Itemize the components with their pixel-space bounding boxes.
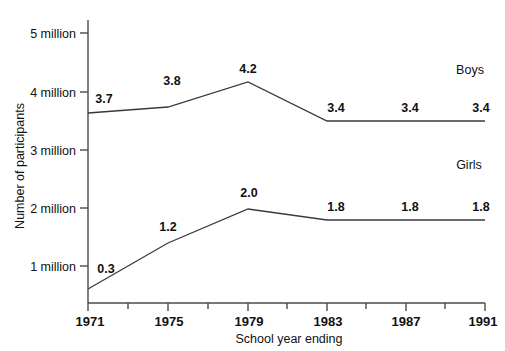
data-labels-girls: 0.3 1.2 2.0 1.8 1.8 1.8 [97,186,489,276]
data-label-boys: 3.4 [327,101,344,115]
data-label-girls: 1.2 [159,220,176,234]
y-tick-label: 1 million [30,260,76,274]
y-tick-label: 4 million [30,86,76,100]
y-tick-label: 3 million [30,144,76,158]
data-label-boys: 4.2 [239,62,256,76]
x-axis-title: School year ending [235,332,342,346]
data-labels-boys: 3.7 3.8 4.2 3.4 3.4 3.4 [95,62,489,115]
series-label-boys: Boys [456,63,484,77]
x-axis-ticks [88,303,485,311]
data-label-girls: 1.8 [327,200,344,214]
data-label-girls: 1.8 [472,200,489,214]
y-tick-label: 2 million [30,202,76,216]
data-label-boys: 3.8 [163,74,180,88]
x-tick-label: 1975 [155,314,184,329]
data-label-boys: 3.7 [95,92,112,106]
y-axis-tick-labels: 5 million 4 million 3 million 2 million … [30,27,76,274]
x-axis-tick-labels: 1971 1975 1979 1983 1987 1991 [76,314,498,329]
y-axis-title: Number of participants [13,103,27,229]
x-tick-label: 1987 [392,314,421,329]
data-label-boys: 3.4 [472,101,489,115]
x-tick-label: 1983 [314,314,343,329]
x-tick-label: 1991 [469,314,498,329]
series-line-girls [88,209,485,289]
y-tick-label: 5 million [30,27,76,41]
data-label-girls: 2.0 [240,186,257,200]
x-tick-label: 1971 [76,314,105,329]
series-label-girls: Girls [456,158,482,172]
chart-canvas: 5 million 4 million 3 million 2 million … [0,0,505,351]
data-label-girls: 1.8 [401,200,418,214]
line-chart-figure: 5 million 4 million 3 million 2 million … [0,0,505,351]
y-axis-ticks [80,33,88,266]
x-tick-label: 1979 [235,314,264,329]
series-line-boys [88,82,485,121]
data-label-boys: 3.4 [401,101,418,115]
data-label-girls: 0.3 [97,262,114,276]
